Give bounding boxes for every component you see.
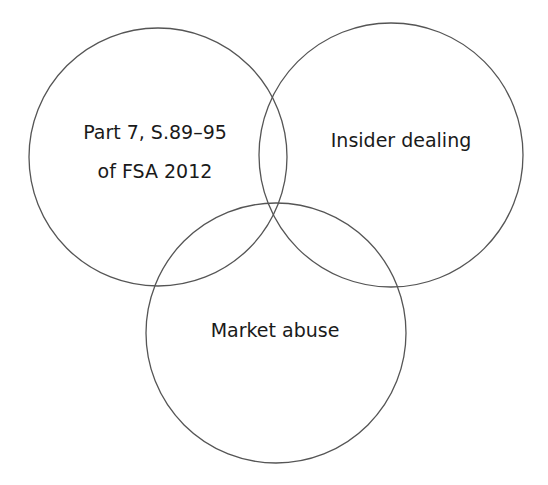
venn-diagram [0, 0, 548, 485]
circle-insider-dealing [259, 23, 523, 287]
label-fsa-line1: Part 7, S.89–95 [60, 120, 250, 145]
label-market-abuse: Market abuse [180, 318, 370, 343]
label-fsa-2012: Part 7, S.89–95 of FSA 2012 [60, 120, 250, 184]
label-fsa-line2: of FSA 2012 [60, 159, 250, 184]
label-insider-dealing: Insider dealing [306, 128, 496, 153]
